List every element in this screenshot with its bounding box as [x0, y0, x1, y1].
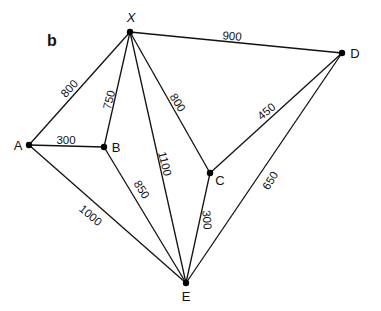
edge-weight-label: 450: [255, 100, 277, 122]
edge-weight-label: 900: [222, 29, 242, 43]
node-label-a: A: [14, 138, 23, 153]
node-label-b: B: [112, 140, 121, 155]
edge-d-e: [186, 53, 342, 283]
node-label-c: C: [215, 173, 224, 188]
node-c: [207, 170, 213, 176]
weighted-graph: 90080075080011003001000850450300650 XABC…: [0, 0, 381, 311]
edge-x-b: [104, 32, 130, 147]
nodes: XABCDE: [14, 10, 360, 304]
node-label-e: E: [182, 289, 191, 304]
edge-weight-label: 800: [58, 77, 80, 99]
node-label-d: D: [350, 46, 359, 61]
edge-labels: 90080075080011003001000850450300650: [56, 29, 280, 230]
edge-weight-label: 300: [200, 210, 214, 230]
graph-diagram: 90080075080011003001000850450300650 XABC…: [0, 0, 381, 311]
panel-label: b: [47, 32, 57, 49]
edges: [29, 32, 342, 283]
edge-weight-label: 1100: [156, 150, 174, 177]
node-d: [339, 50, 345, 56]
node-label-x: X: [126, 10, 137, 25]
edge-weight-label: 1000: [77, 202, 104, 228]
node-e: [183, 280, 189, 286]
edge-weight-label: 750: [101, 89, 117, 111]
edge-b-e: [104, 147, 186, 283]
edge-x-a: [29, 32, 130, 145]
edge-c-d: [210, 53, 342, 173]
edge-weight-label: 650: [260, 169, 280, 192]
node-b: [101, 144, 107, 150]
edge-x-c: [130, 32, 210, 173]
node-x: [127, 29, 133, 35]
node-a: [26, 142, 32, 148]
edge-weight-label: 300: [56, 134, 75, 146]
